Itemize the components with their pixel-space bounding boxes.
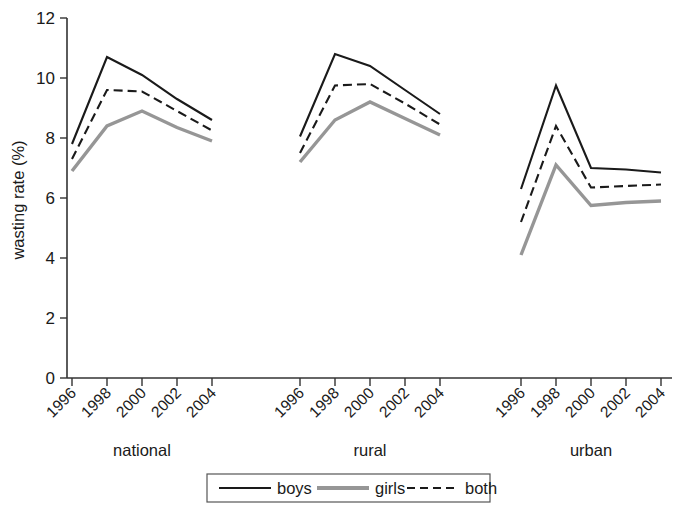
x-tick-label: 1996 (43, 384, 79, 420)
series-lines (72, 54, 661, 255)
x-tick-labels: 1996199820002002200419961998200020022004… (43, 384, 669, 421)
x-tick-label: 2000 (562, 384, 599, 421)
y-tick-label: 6 (46, 189, 55, 208)
y-axis-title: wasting rate (%) (9, 140, 27, 260)
y-tick-label: 8 (46, 129, 55, 148)
y-axis-title-text: wasting rate (%) (9, 140, 27, 260)
x-tick-label: 1996 (271, 384, 307, 420)
x-tick-label: 1998 (527, 384, 563, 420)
series-line-boys-urban (521, 86, 661, 190)
legend-label-both: both (465, 479, 497, 497)
panel-group-labels: nationalruralurban (113, 441, 612, 459)
x-tick-label: 2004 (411, 384, 448, 421)
panel-label-national: national (113, 441, 171, 459)
series-line-both-urban (521, 126, 661, 222)
x-tick-label: 2002 (148, 384, 184, 420)
x-axis (67, 378, 672, 386)
y-axis: 024681012 (36, 9, 67, 388)
y-tick-label: 0 (46, 369, 55, 388)
x-tick-label: 2002 (597, 384, 633, 420)
series-line-both-rural (300, 84, 440, 153)
y-tick-label: 10 (36, 69, 55, 88)
y-tick-label: 4 (46, 249, 55, 268)
x-tick-label: 2004 (632, 384, 669, 421)
legend-label-girls: girls (375, 479, 405, 497)
panel-label-rural: rural (353, 441, 386, 459)
wasting-rate-line-chart: wasting rate (%) 024681012 1996199820002… (0, 0, 678, 506)
panel-label-urban: urban (570, 441, 612, 459)
series-line-girls-urban (521, 165, 661, 255)
legend-label-boys: boys (277, 479, 312, 497)
x-tick-label: 2000 (113, 384, 150, 421)
y-tick-label: 12 (36, 9, 55, 28)
x-tick-label: 2000 (341, 384, 378, 421)
y-tick-label: 2 (46, 309, 55, 328)
chart-figure: wasting rate (%) 024681012 1996199820002… (0, 0, 678, 506)
x-tick-label: 2002 (376, 384, 412, 420)
series-line-boys-national (72, 57, 212, 144)
series-line-both-national (72, 90, 212, 159)
x-tick-label: 2004 (183, 384, 220, 421)
chart-legend: boysgirlsboth (207, 474, 497, 502)
x-tick-label: 1996 (492, 384, 528, 420)
x-tick-label: 1998 (78, 384, 114, 420)
x-tick-label: 1998 (306, 384, 342, 420)
